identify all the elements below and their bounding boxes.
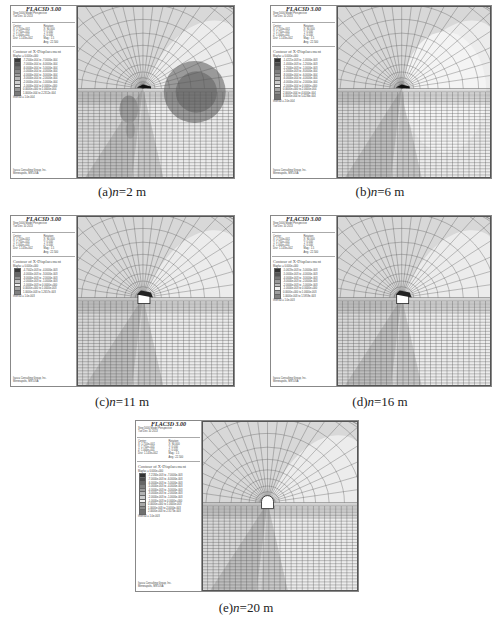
divider — [272, 22, 335, 23]
legend: FLAC3D 3.00 Step 5000 Model PerspectiveT… — [136, 421, 202, 591]
step-info: Step 5000 Model PerspectiveTue Dec 10 20… — [271, 11, 336, 19]
mesh-plot — [337, 6, 491, 178]
interval: Interval = 1.0e-004 — [11, 95, 76, 100]
mesh-plot — [202, 421, 358, 591]
footer: Itasca Consulting Group, Inc.Minneapolis… — [13, 377, 46, 383]
interval: Interval = 1.0e-003 — [271, 298, 336, 303]
divider — [137, 437, 200, 438]
caption-c: (c)n=11 m — [22, 394, 222, 410]
interval: Interval = 1.0e-003 — [136, 514, 201, 519]
legend: FLAC3D 3.00 Step 5000 Model PerspectiveT… — [271, 216, 337, 386]
footer: Itasca Consulting Group, Inc.Minneapolis… — [13, 169, 46, 175]
panel-b: FLAC3D 3.00 Step 5000 Model PerspectiveT… — [270, 5, 492, 179]
footer: Itasca Consulting Group, Inc.Minneapolis… — [273, 169, 306, 175]
view-info: Center:X: 1.750e+001Y: 1.750e+001Z: 1.00… — [271, 235, 336, 254]
mesh-plot — [77, 216, 234, 386]
divider — [12, 256, 75, 257]
divider — [12, 232, 75, 233]
caption-d: (d)n=16 m — [280, 394, 480, 410]
step-info: Step 5000 Model PerspectiveTue Dec 10 20… — [11, 221, 76, 229]
legend-swatch — [274, 94, 281, 99]
divider — [137, 461, 200, 462]
legend: FLAC3D 3.00 Step 5000 Model PerspectiveT… — [11, 6, 77, 178]
divider — [12, 22, 75, 23]
footer: Itasca Consulting Group, Inc.Minneapolis… — [138, 582, 171, 588]
divider — [272, 232, 335, 233]
interval: Interval = 1.0e-003 — [11, 294, 76, 299]
interval: Interval = 2.0e-004 — [271, 99, 336, 104]
view-info: Center:X: 1.750e+001Y: 1.750e+001Z: 1.00… — [11, 235, 76, 254]
divider — [272, 46, 335, 47]
legend: FLAC3D 3.00 Step 5000 Model PerspectiveT… — [11, 216, 77, 386]
caption-a: (a)n=2 m — [22, 184, 222, 200]
mesh-plot — [337, 216, 491, 386]
panel-c: FLAC3D 3.00 Step 5000 Model PerspectiveT… — [10, 215, 235, 387]
view-info: Center:X: 1.750e+001Y: 1.750e+001Z: 1.00… — [136, 440, 201, 459]
mesh-plot — [77, 6, 234, 178]
divider — [12, 46, 75, 47]
step-info: Step 5000 Model PerspectiveTue Dec 10 20… — [136, 426, 201, 434]
view-info: Center:X: 1.750e+001Y: 1.750e+001Z: 1.00… — [11, 25, 76, 44]
view-info: Center:X: 1.750e+001Y: 1.750e+001Z: 1.00… — [271, 25, 336, 44]
caption-b: (b)n=6 m — [280, 184, 480, 200]
panel-e: FLAC3D 3.00 Step 5000 Model PerspectiveT… — [135, 420, 359, 592]
panel-a: FLAC3D 3.00 Step 5000 Model PerspectiveT… — [10, 5, 235, 179]
step-info: Step 5000 Model PerspectiveTue Dec 10 20… — [11, 11, 76, 19]
divider — [272, 256, 335, 257]
panel-d: FLAC3D 3.00 Step 5000 Model PerspectiveT… — [270, 215, 492, 387]
step-info: Step 5000 Model PerspectiveTue Dec 10 20… — [271, 221, 336, 229]
legend-swatch — [139, 509, 146, 514]
footer: Itasca Consulting Group, Inc.Minneapolis… — [273, 377, 306, 383]
legend: FLAC3D 3.00 Step 5000 Model PerspectiveT… — [271, 6, 337, 178]
caption-e: (e)n=20 m — [146, 600, 346, 616]
